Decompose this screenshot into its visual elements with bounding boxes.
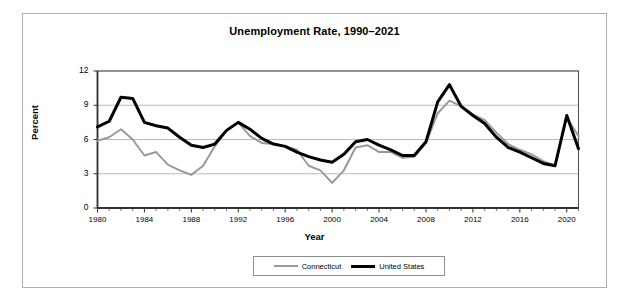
legend-label-connecticut: Connecticut bbox=[302, 262, 342, 271]
series-line-connecticut bbox=[98, 101, 579, 183]
series-lines bbox=[98, 85, 579, 183]
x-tick-label-2004: 2004 bbox=[359, 215, 399, 224]
x-tick-label-2000: 2000 bbox=[312, 215, 352, 224]
legend-item-connecticut: Connecticut bbox=[274, 262, 342, 271]
x-tick-label-1988: 1988 bbox=[171, 215, 211, 224]
legend-swatch-connecticut bbox=[274, 265, 298, 267]
x-tick-label-1992: 1992 bbox=[218, 215, 258, 224]
x-tick-label-2016: 2016 bbox=[500, 215, 540, 224]
chart-figure: Unemployment Rate, 1990–2021 Percent Yea… bbox=[0, 0, 629, 301]
x-tick-label-1996: 1996 bbox=[265, 215, 305, 224]
series-line-united-states bbox=[98, 85, 579, 166]
y-tick-label-9: 9 bbox=[63, 99, 89, 109]
y-tick-label-12: 12 bbox=[63, 65, 89, 75]
y-tick-label-6: 6 bbox=[63, 134, 89, 144]
x-tick-label-2008: 2008 bbox=[406, 215, 446, 224]
x-tick-label-1980: 1980 bbox=[78, 215, 118, 224]
legend-swatch-united-states bbox=[351, 265, 375, 268]
y-tick-label-3: 3 bbox=[63, 168, 89, 178]
y-tick-label-0: 0 bbox=[63, 202, 89, 212]
x-tick-label-1984: 1984 bbox=[124, 215, 164, 224]
legend-item-united-states: United States bbox=[351, 262, 424, 271]
x-tick-label-2020: 2020 bbox=[547, 215, 587, 224]
chart-legend: Connecticut United States bbox=[253, 256, 445, 276]
x-tick-label-2012: 2012 bbox=[453, 215, 493, 224]
legend-label-united-states: United States bbox=[379, 262, 424, 271]
